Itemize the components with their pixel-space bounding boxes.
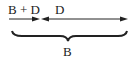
arrowhead-right-inner	[32, 17, 40, 22]
arrowhead-right-outer	[120, 17, 128, 22]
label-b-total: B	[63, 45, 72, 58]
brace-icon	[12, 31, 127, 41]
arrowhead-left-inner	[41, 17, 49, 22]
